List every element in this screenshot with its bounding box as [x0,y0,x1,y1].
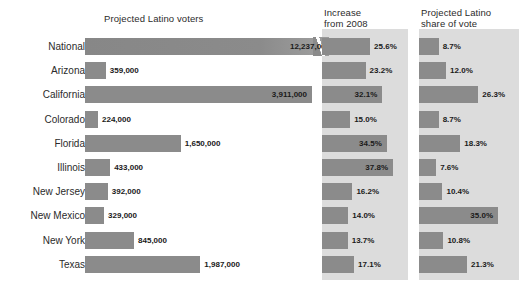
row-label-texas: Texas [9,256,85,273]
value-increase-from-2008: 25.6% [374,38,397,55]
value-projected-voters: 359,000 [110,62,139,79]
value-projected-share: 12.0% [450,62,473,79]
bar-increase-from-2008 [322,111,350,128]
value-projected-share: 10.8% [447,232,470,249]
bar-projected-share [419,232,443,249]
table-row: Florida1,650,00034.5%18.3% [0,135,521,152]
value-projected-share: 8.7% [443,38,461,55]
bar-projected-voters [85,183,108,200]
value-projected-voters: 845,000 [138,232,167,249]
table-row: New Mexico329,00014.0%35.0% [0,207,521,224]
bar-projected-share [419,159,436,176]
table-row: Illinois433,00037.8%7.6% [0,159,521,176]
table-row: New Jersey392,00016.2%10.4% [0,183,521,200]
table-row: New York845,00013.7%10.8% [0,232,521,249]
row-label-arizona: Arizona [9,62,85,79]
bar-projected-voters [85,207,104,224]
table-row: National12,237,00025.6%8.7% [0,38,521,55]
value-increase-from-2008: 37.8% [322,159,393,176]
bar-projected-share [419,135,460,152]
table-row: Arizona359,00023.2%12.0% [0,62,521,79]
value-increase-from-2008: 32.1% [322,86,382,103]
value-increase-from-2008: 34.5% [322,135,387,152]
bar-increase-from-2008 [322,232,348,249]
table-row: California3,911,00032.1%26.3% [0,86,521,103]
value-projected-share: 7.6% [440,159,458,176]
bar-increase-from-2008 [322,256,354,273]
value-projected-share: 35.0% [419,207,498,224]
value-increase-from-2008: 16.2% [356,183,379,200]
row-label-national: National [9,38,85,55]
column-title-projected-voters: Projected Latino voters [104,14,203,25]
row-label-new-jersey: New Jersey [9,183,85,200]
bar-projected-voters [85,256,200,273]
value-increase-from-2008: 17.1% [358,256,381,273]
bar-projected-share [419,256,467,273]
value-increase-from-2008: 13.7% [352,232,375,249]
latino-voters-chart: Projected Latino voters Increase from 20… [0,0,521,292]
table-row: Colorado224,00015.0%8.7% [0,111,521,128]
value-increase-from-2008: 14.0% [352,207,375,224]
value-projected-share: 21.3% [471,256,494,273]
bar-projected-share [419,38,439,55]
column-title-increase: Increase from 2008 [324,8,368,29]
bar-projected-voters [85,111,98,128]
row-label-florida: Florida [9,135,85,152]
value-projected-voters: 433,000 [114,159,143,176]
value-projected-voters: 1,650,000 [185,135,221,152]
value-increase-from-2008: 15.0% [354,111,377,128]
column-title-share: Projected Latino share of vote [421,8,491,29]
value-projected-voters: 392,000 [112,183,141,200]
value-increase-from-2008: 23.2% [370,62,393,79]
row-label-california: California [9,86,85,103]
value-projected-share: 8.7% [443,111,461,128]
value-projected-voters: 3,911,000 [85,86,312,103]
bar-increase-from-2008 [322,207,348,224]
bar-increase-from-2008 [322,62,366,79]
bar-increase-from-2008 [322,183,352,200]
value-projected-voters: 224,000 [102,111,131,128]
value-projected-voters: 329,000 [108,207,137,224]
bar-increase-from-2008 [322,38,370,55]
bar-projected-share [419,111,439,128]
bar-projected-voters [85,62,106,79]
bar-projected-share [419,62,446,79]
value-projected-voters: 12,237,000 [85,38,335,55]
bar-projected-voters [85,135,181,152]
value-projected-share: 10.4% [446,183,469,200]
value-projected-voters: 1,987,000 [204,256,240,273]
value-projected-share: 18.3% [464,135,487,152]
bar-projected-share [419,86,478,103]
bar-projected-voters [85,232,134,249]
table-row: Texas1,987,00017.1%21.3% [0,256,521,273]
row-label-new-mexico: New Mexico [9,207,85,224]
value-projected-share: 26.3% [482,86,505,103]
row-label-new-york: New York [9,232,85,249]
row-label-colorado: Colorado [9,111,85,128]
bar-projected-voters [85,159,110,176]
bar-projected-share [419,183,442,200]
row-label-illinois: Illinois [9,159,85,176]
